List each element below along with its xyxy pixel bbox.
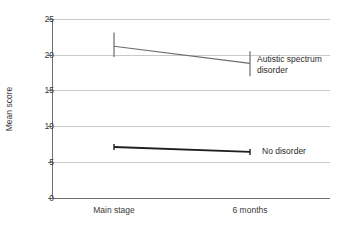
series-label-autistic-spectrum-disorder: Autistic spectrum disorder <box>257 54 322 76</box>
x-tick-label-6-months: 6 months <box>233 205 268 215</box>
series-label-asd-line-2: disorder <box>257 65 322 76</box>
x-tick-label-main-stage: Main stage <box>93 205 135 215</box>
series-line-nodisorder <box>114 147 250 152</box>
plot-area <box>0 0 337 232</box>
line-chart: Mean score 25 20 15 10 5 0 Main stage 6 … <box>0 0 337 232</box>
series-label-no-disorder: No disorder <box>262 146 306 157</box>
series-line-asd <box>114 46 250 63</box>
series-label-asd-line-1: Autistic spectrum <box>257 54 322 65</box>
